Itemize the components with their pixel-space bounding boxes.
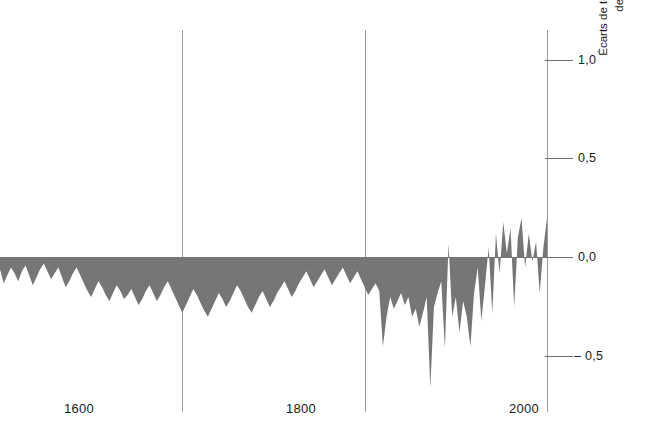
y-tick-label-2: 0,5 xyxy=(578,151,596,165)
x-tick-label-1600: 1600 xyxy=(30,401,94,416)
y-tick-marks xyxy=(545,61,573,357)
x-gridlines xyxy=(183,30,548,412)
y-tick-label-4: – 0,5 xyxy=(574,349,603,363)
y-tick-label-1: 1,0 xyxy=(578,53,596,67)
y-tick-label-3: 0,0 xyxy=(578,250,596,264)
temperature-anomaly-chart: 1,0 0,5 0,0 – 0,5 1600 1800 2000 Écarts … xyxy=(0,0,662,443)
chart-canvas xyxy=(0,0,662,443)
x-tick-label-2000: 2000 xyxy=(475,401,539,416)
x-tick-label-1800: 1800 xyxy=(252,401,316,416)
anomaly-area-series xyxy=(0,218,547,388)
